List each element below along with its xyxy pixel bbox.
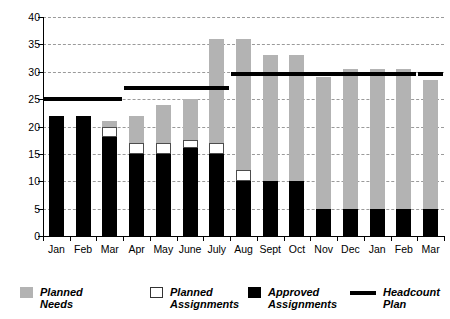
bar-group — [49, 17, 64, 236]
bar-segment-planned-needs — [423, 80, 438, 209]
legend-swatch-white — [150, 287, 163, 298]
bar-segment-planned-needs — [236, 39, 251, 170]
headcount-plan-segment — [44, 97, 122, 101]
legend-item[interactable]: Planned Assignments — [150, 286, 248, 310]
y-tick-mark — [38, 72, 44, 73]
x-tick-mark — [444, 236, 445, 241]
headcount-plan-segment — [124, 86, 229, 90]
bar-segment-planned-assignments — [236, 170, 251, 181]
legend-swatch-line — [350, 291, 376, 295]
x-tick-label: July — [207, 243, 226, 255]
x-tick-label: Nov — [314, 243, 333, 255]
bar-segment-approved-assignments — [316, 209, 331, 236]
bar-segment-planned-assignments — [156, 143, 171, 154]
bar-group — [423, 17, 438, 236]
bar-segment-approved-assignments — [156, 154, 171, 236]
legend-label: Approved Assignments — [268, 286, 346, 310]
y-tick-mark — [38, 44, 44, 45]
bar-segment-approved-assignments — [209, 154, 224, 236]
bar-segment-planned-needs — [156, 105, 171, 143]
bar-segment-planned-assignments — [102, 127, 117, 138]
x-tick-label: Feb — [395, 243, 413, 255]
x-tick-label: May — [153, 243, 173, 255]
bar-series — [43, 17, 444, 236]
bar-segment-approved-assignments — [263, 181, 278, 236]
bar-segment-planned-assignments — [209, 143, 224, 154]
x-tick-mark — [337, 236, 338, 241]
bar-segment-planned-needs — [209, 39, 224, 143]
x-tick-mark — [391, 236, 392, 241]
bar-segment-approved-assignments — [102, 137, 117, 236]
bar-segment-approved-assignments — [129, 154, 144, 236]
bar-group — [183, 17, 198, 236]
x-tick-mark — [123, 236, 124, 241]
bar-segment-approved-assignments — [183, 148, 198, 236]
bar-group — [370, 17, 385, 236]
x-tick-mark — [230, 236, 231, 241]
bar-segment-planned-assignments — [183, 140, 198, 148]
bar-segment-approved-assignments — [396, 209, 411, 236]
x-tick-mark — [310, 236, 311, 241]
legend-item[interactable]: Approved Assignments — [248, 286, 346, 310]
x-tick-mark — [70, 236, 71, 241]
x-tick-mark — [284, 236, 285, 241]
x-tick-mark — [96, 236, 97, 241]
x-tick-label: Mar — [101, 243, 119, 255]
x-axis-labels: JanFebMarAprMayJuneJulyAugSeptOctNovDecJ… — [0, 243, 450, 259]
x-tick-label: Aug — [234, 243, 253, 255]
x-tick-mark — [43, 236, 44, 241]
legend-swatch-black — [248, 287, 261, 298]
bar-segment-planned-assignments — [129, 143, 144, 154]
legend-item[interactable]: Planned Needs — [20, 286, 118, 310]
plot-area — [43, 17, 444, 236]
bar-segment-planned-needs — [183, 99, 198, 140]
y-tick-mark — [38, 209, 44, 210]
x-tick-label: Dec — [341, 243, 360, 255]
bar-segment-planned-needs — [343, 69, 358, 209]
x-tick-mark — [364, 236, 365, 241]
legend-label: Headcount Plan — [383, 286, 450, 310]
bar-segment-planned-needs — [129, 116, 144, 143]
bar-group — [396, 17, 411, 236]
x-axis-line — [43, 236, 444, 237]
bar-group — [236, 17, 251, 236]
bar-segment-planned-needs — [370, 69, 385, 209]
legend-item[interactable]: Headcount Plan — [350, 286, 450, 310]
x-tick-label: June — [179, 243, 202, 255]
x-tick-mark — [150, 236, 151, 241]
bar-segment-approved-assignments — [49, 116, 64, 236]
x-tick-mark — [203, 236, 204, 241]
bar-segment-approved-assignments — [289, 181, 304, 236]
x-tick-label: Sept — [259, 243, 281, 255]
x-tick-label: Jan — [369, 243, 386, 255]
x-tick-mark — [257, 236, 258, 241]
bar-group — [102, 17, 117, 236]
x-tick-label: Oct — [289, 243, 305, 255]
y-tick-mark — [38, 127, 44, 128]
bar-group — [316, 17, 331, 236]
bar-group — [209, 17, 224, 236]
legend-label: Planned Assignments — [170, 286, 248, 310]
x-tick-mark — [177, 236, 178, 241]
bar-group — [129, 17, 144, 236]
y-tick-mark — [38, 154, 44, 155]
x-tick-mark — [417, 236, 418, 241]
bar-segment-approved-assignments — [76, 116, 91, 236]
bar-group — [76, 17, 91, 236]
legend-swatch-gray — [20, 287, 33, 298]
bar-group — [156, 17, 171, 236]
x-tick-label: Apr — [128, 243, 144, 255]
y-tick-mark — [38, 99, 44, 100]
bar-segment-approved-assignments — [236, 181, 251, 236]
y-tick-mark — [38, 17, 44, 18]
legend-label: Planned Needs — [40, 286, 118, 310]
bar-segment-approved-assignments — [370, 209, 385, 236]
chart-legend: Planned NeedsPlanned AssignmentsApproved… — [0, 286, 450, 319]
chart-container: FTEs 0510152025303540 JanFebMarAprMayJun… — [0, 0, 450, 319]
bar-segment-approved-assignments — [343, 209, 358, 236]
y-axis-labels: 0510152025303540 — [10, 0, 40, 319]
bar-group — [263, 17, 278, 236]
bar-segment-planned-needs — [396, 69, 411, 209]
headcount-plan-segment — [418, 72, 443, 76]
bar-segment-approved-assignments — [423, 209, 438, 236]
